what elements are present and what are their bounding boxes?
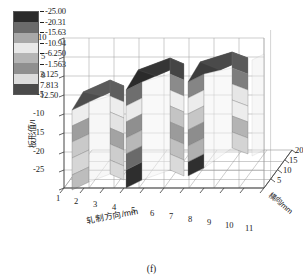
x-tick-label-6: 7 [169,212,173,221]
z-tick-label-1: 10 [283,166,292,175]
y-tick-label-2: 0 [41,71,45,80]
y-tick-label-4: -10 [33,109,44,118]
z-tick-label-2: 15 [289,156,298,165]
y-tick-label-1: 5 [41,52,45,61]
figure-3d-surface-plot: -25.00 -20.31 -15.63 -10.94 -6.250 -1.56… [0,0,303,280]
colorbar-swatches [13,11,39,95]
x-tick-label-0: 1 [56,194,60,203]
y-tick-label-6: -20 [33,147,44,156]
z-tick-label-0: 5 [277,176,281,185]
figure-caption: (f) [0,264,303,274]
colorbar-band-6 [14,74,38,84]
colorbar-band-0 [14,12,38,22]
x-axis-ticks [60,188,264,193]
z-tick-label-3: 20 [295,146,303,155]
x-tick-label-10: 11 [245,224,253,233]
surface-ridge-2 [126,58,184,188]
x-tick-label-8: 9 [207,218,211,227]
surface-mesh [72,52,264,190]
surface-ridge-1 [72,80,124,190]
y-axis-ticks [59,38,64,190]
plot-area: 10 5 0 -5 -10 -15 -20 -25 1 2 3 4 5 6 7 … [58,30,298,230]
colorbar-band-5 [14,63,38,73]
y-axis-title: 板形值/I [26,120,37,148]
colorbar-tick-0: -25.00 [40,7,66,16]
x-tick-label-5: 6 [150,209,154,218]
x-tick-label-7: 8 [188,215,192,224]
colorbar-band-1 [14,22,38,32]
surface-ridge-4-partial [252,54,264,156]
y-tick-label-0: 10 [38,33,47,42]
x-tick-label-2: 3 [93,200,97,209]
colorbar-tick-1: -20.31 [40,18,66,27]
y-tick-label-7: -25 [33,165,44,174]
x-tick-label-9: 10 [225,221,234,230]
colorbar-band-7 [14,84,38,94]
colorbar-band-4 [14,53,38,63]
y-tick-label-3: -5 [37,90,44,99]
colorbar-band-3 [14,43,38,53]
colorbar-band-2 [14,33,38,43]
x-tick-label-1: 2 [74,197,78,206]
